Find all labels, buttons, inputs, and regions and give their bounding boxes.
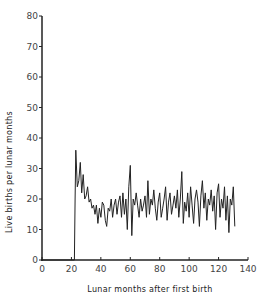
x-tick-label: 80 [154,264,166,274]
y-tick-label: 50 [27,103,39,113]
y-tick-label: 60 [27,72,39,82]
x-tick-label: 60 [125,264,137,274]
x-axis-title: Lunar months after first birth [87,285,212,294]
y-axis: 01020304050607080 [27,11,42,265]
x-tick-label: 20 [66,264,78,274]
x-tick-label: 0 [39,264,45,274]
y-tick-label: 30 [27,164,39,174]
y-tick-label: 20 [27,194,39,204]
y-tick-label: 80 [27,11,39,21]
x-tick-label: 120 [210,264,227,274]
y-tick-label: 40 [27,133,39,143]
line-chart: 01020304050607080 020406080100120140 Lun… [0,0,267,300]
data-line [42,150,235,260]
y-tick-label: 10 [27,225,39,235]
y-axis-title: Live births per lunar months [5,111,14,233]
x-tick-label: 140 [239,264,256,274]
y-tick-label: 0 [32,255,38,265]
x-tick-label: 100 [181,264,198,274]
x-tick-label: 40 [95,264,107,274]
y-tick-label: 70 [27,42,39,52]
